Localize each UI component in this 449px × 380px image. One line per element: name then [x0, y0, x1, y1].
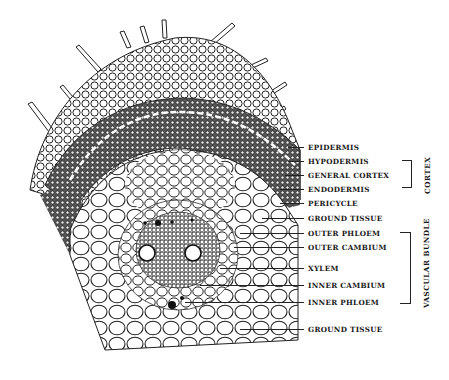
label-outer-cambium: OUTER CAMBIUM: [308, 243, 387, 252]
leader-inner-cambium: [200, 285, 304, 286]
leader-epidermis: [288, 147, 304, 148]
label-xylem: XYLEM: [308, 264, 339, 273]
label-ground-tissue-top: GROUND TISSUE: [308, 214, 383, 223]
leader-inner-phloem: [185, 302, 304, 303]
tissue-illustration: [0, 0, 449, 380]
label-outer-phloem: OUTER PHLOEM: [308, 229, 380, 238]
cortex-bracket: [402, 160, 412, 188]
label-inner-phloem: INNER PHLOEM: [308, 298, 379, 307]
label-epidermis: EPIDERMIS: [308, 143, 359, 152]
group-label-cortex: CORTEX: [423, 157, 432, 194]
label-general-cortex: GENERAL CORTEX: [308, 171, 389, 180]
leader-endodermis: [280, 189, 304, 190]
root-cross-section-diagram: EPIDERMIS HYPODERMIS GENERAL CORTEX ENDO…: [0, 0, 449, 380]
leader-outer-phloem: [240, 233, 304, 234]
leader-hypodermis: [288, 161, 304, 162]
label-inner-cambium: INNER CAMBIUM: [308, 281, 385, 290]
label-endodermis: ENDODERMIS: [308, 185, 370, 194]
label-pericycle: PERICYCLE: [308, 199, 358, 208]
label-hypodermis: HYPODERMIS: [308, 157, 369, 166]
label-ground-tissue-bottom: GROUND TISSUE: [308, 325, 383, 334]
vascular-bundle-bracket: [400, 232, 411, 304]
vascular-bundle-illustration: [118, 200, 238, 310]
group-label-vascular-bundle: VASCULAR BUNDLE: [422, 218, 431, 308]
leader-outer-cambium: [234, 247, 304, 248]
leader-pericycle: [280, 203, 304, 204]
leader-ground-tissue-top: [262, 218, 304, 219]
leader-general-cortex: [285, 175, 304, 176]
leader-xylem: [220, 268, 304, 269]
leader-ground-tissue-bottom: [240, 329, 304, 330]
